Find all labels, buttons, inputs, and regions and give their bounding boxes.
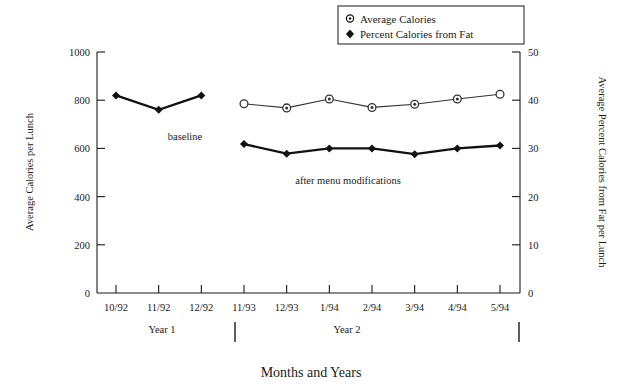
right-tick-label-30: 30 [528, 143, 539, 154]
x-tick-label-12-92: 12/92 [189, 302, 213, 313]
data-point-fat-3-94 [411, 150, 419, 158]
data-point-calories-11-93 [240, 100, 248, 108]
right-axis: 50 40 30 20 10 0 Average Percent Calorie… [512, 47, 608, 299]
data-point-calories-center-1-94 [328, 97, 331, 100]
data-point-fat-2-94 [368, 144, 376, 152]
series-average-calories [240, 90, 504, 112]
x-tick-label-11-93: 11/93 [232, 302, 256, 313]
right-tick-label-0: 0 [528, 288, 533, 299]
series-markers-calories [240, 90, 504, 112]
chart-svg: Average Calories Percent Calories from F… [0, 0, 623, 390]
chart-container: Average Calories Percent Calories from F… [0, 0, 623, 390]
data-point-fat-5-94 [496, 142, 504, 150]
left-axis: 1000 800 600 400 200 0 Average Calories … [24, 47, 105, 299]
left-tick-label-0: 0 [85, 288, 90, 299]
series-percent-calories-from-fat [112, 91, 504, 158]
annotation-baseline: baseline [168, 131, 203, 142]
left-tick-label-600: 600 [74, 143, 90, 154]
year-label-1: Year 1 [148, 324, 175, 335]
x-axis: 10/9211/9212/9211/9312/931/942/943/944/9… [97, 285, 520, 313]
year-groups: Year 1 Year 2 [148, 322, 519, 342]
data-point-fat-12-92 [197, 91, 205, 99]
x-tick-label-1-94: 1/94 [320, 302, 339, 313]
left-axis-title: Average Calories per Lunch [24, 112, 35, 231]
data-point-calories-5-94 [496, 90, 504, 98]
data-point-calories-center-3-94 [413, 103, 416, 106]
right-axis-title: Average Percent Calories from Fat per Lu… [597, 76, 608, 268]
x-tick-label-4-94: 4/94 [448, 302, 467, 313]
left-tick-label-200: 200 [74, 240, 90, 251]
data-point-fat-12-93 [283, 150, 291, 158]
x-tick-label-5-94: 5/94 [491, 302, 510, 313]
legend-label-percent-calories-from-fat: Percent Calories from Fat [360, 28, 473, 40]
x-tick-label-12-93: 12/93 [275, 302, 299, 313]
data-point-fat-4-94 [453, 144, 461, 152]
series-markers-fat [112, 91, 504, 158]
year-label-2: Year 2 [333, 324, 360, 335]
data-point-calories-center-4-94 [456, 97, 459, 100]
legend: Average Calories Percent Calories from F… [338, 6, 524, 44]
filled-diamond-icon [346, 30, 354, 39]
x-tick-marks [116, 285, 500, 293]
right-tick-label-40: 40 [528, 95, 539, 106]
legend-item-percent-calories-from-fat[interactable]: Percent Calories from Fat [346, 28, 473, 40]
right-tick-label-20: 20 [528, 192, 539, 203]
legend-item-average-calories[interactable]: Average Calories [346, 13, 435, 25]
x-tick-labels: 10/9211/9212/9211/9312/931/942/943/944/9… [104, 302, 510, 313]
x-axis-title: Months and Years [261, 365, 362, 380]
data-point-fat-1-94 [325, 144, 333, 152]
data-point-calories-center-12-93 [285, 106, 288, 109]
data-point-fat-10-92 [112, 91, 120, 99]
x-tick-label-2-94: 2/94 [363, 302, 382, 313]
legend-label-average-calories: Average Calories [360, 13, 436, 25]
left-tick-label-1000: 1000 [69, 47, 90, 58]
x-tick-label-3-94: 3/94 [405, 302, 424, 313]
left-tick-label-400: 400 [74, 192, 90, 203]
x-tick-label-11-92: 11/92 [147, 302, 171, 313]
left-tick-label-800: 800 [74, 95, 90, 106]
data-point-fat-11-92 [155, 106, 163, 114]
x-tick-label-10-92: 10/92 [104, 302, 128, 313]
open-circle-center-icon [349, 17, 351, 19]
data-point-calories-center-2-94 [371, 106, 374, 109]
annotation-after-menu-modifications: after menu modifications [295, 175, 401, 186]
right-tick-label-50: 50 [528, 47, 539, 58]
data-point-fat-11-93 [240, 140, 248, 148]
right-tick-label-10: 10 [528, 240, 539, 251]
